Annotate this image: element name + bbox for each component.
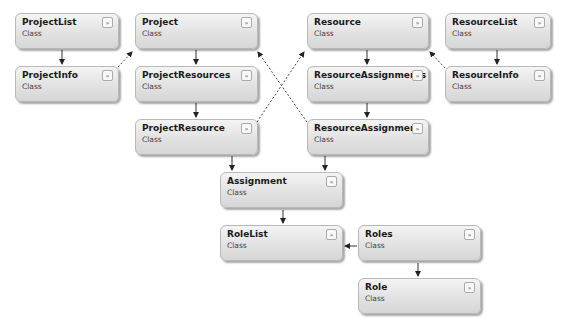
- expand-chevron-icon[interactable]: »: [412, 70, 423, 81]
- class-assignment[interactable]: Assignment Class »: [220, 172, 343, 208]
- class-kind: Class: [142, 29, 162, 38]
- class-name: Assignment: [227, 176, 287, 186]
- class-kind: Class: [227, 188, 247, 197]
- dashed-projectinfo-project: [118, 52, 132, 67]
- class-kind: Class: [314, 29, 334, 38]
- dashed-projectresource-resource: [257, 52, 304, 122]
- expand-chevron-icon[interactable]: »: [102, 17, 113, 28]
- class-projectinfo[interactable]: ProjectInfo Class »: [15, 66, 119, 102]
- class-kind: Class: [314, 82, 334, 91]
- expand-chevron-icon[interactable]: »: [241, 70, 252, 81]
- expand-chevron-icon[interactable]: »: [326, 229, 337, 240]
- class-kind: Class: [365, 294, 385, 303]
- class-kind: Class: [142, 135, 162, 144]
- dashed-resourceinfo-resource: [430, 52, 445, 68]
- class-kind: Class: [365, 241, 385, 250]
- dashed-resourceassignment-project: [258, 52, 307, 122]
- class-roles[interactable]: Roles Class »: [358, 225, 481, 261]
- class-name: Roles: [365, 229, 393, 239]
- class-kind: Class: [452, 29, 472, 38]
- expand-chevron-icon[interactable]: »: [102, 70, 113, 81]
- class-resource[interactable]: Resource Class »: [307, 13, 429, 49]
- class-name: ProjectInfo: [22, 70, 78, 80]
- expand-chevron-icon[interactable]: »: [241, 123, 252, 134]
- expand-chevron-icon[interactable]: »: [534, 70, 545, 81]
- class-name: ProjectResources: [142, 70, 230, 80]
- expand-chevron-icon[interactable]: »: [412, 123, 423, 134]
- class-name: ResourceList: [452, 17, 517, 27]
- expand-chevron-icon[interactable]: »: [464, 282, 475, 293]
- class-name: ProjectResource: [142, 123, 225, 133]
- class-name: Resource: [314, 17, 361, 27]
- class-projectresource[interactable]: ProjectResource Class »: [135, 119, 258, 155]
- class-name: ResourceAssignments: [314, 70, 426, 80]
- expand-chevron-icon[interactable]: »: [534, 17, 545, 28]
- class-kind: Class: [22, 82, 42, 91]
- class-name: Role: [365, 282, 387, 292]
- class-rolelist[interactable]: RoleList Class »: [220, 225, 343, 261]
- class-kind: Class: [314, 135, 334, 144]
- class-role[interactable]: Role Class »: [358, 278, 481, 314]
- class-resourcelist[interactable]: ResourceList Class »: [445, 13, 551, 49]
- class-resourceassignment[interactable]: ResourceAssignment Class »: [307, 119, 429, 155]
- class-kind: Class: [142, 82, 162, 91]
- class-projectlist[interactable]: ProjectList Class »: [15, 13, 119, 49]
- expand-chevron-icon[interactable]: »: [464, 229, 475, 240]
- class-name: ResourceAssignment: [314, 123, 421, 133]
- class-name: RoleList: [227, 229, 268, 239]
- class-name: Project: [142, 17, 178, 27]
- class-name: ProjectList: [22, 17, 77, 27]
- class-resourceinfo[interactable]: ResourceInfo Class »: [445, 66, 551, 102]
- expand-chevron-icon[interactable]: »: [326, 176, 337, 187]
- class-kind: Class: [227, 241, 247, 250]
- expand-chevron-icon[interactable]: »: [412, 17, 423, 28]
- class-name: ResourceInfo: [452, 70, 519, 80]
- class-kind: Class: [452, 82, 472, 91]
- class-kind: Class: [22, 29, 42, 38]
- expand-chevron-icon[interactable]: »: [241, 17, 252, 28]
- class-resourceassignments[interactable]: ResourceAssignments Class »: [307, 66, 429, 102]
- class-project[interactable]: Project Class »: [135, 13, 258, 49]
- class-projectresources[interactable]: ProjectResources Class »: [135, 66, 258, 102]
